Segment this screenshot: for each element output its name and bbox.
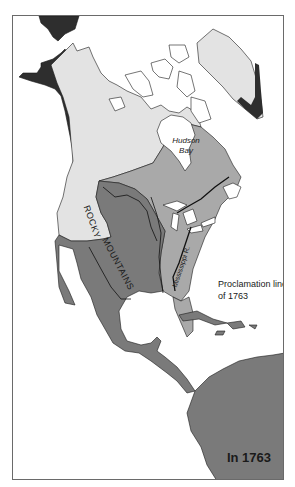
hudson-bay-label: Hudson Bay [166,136,206,156]
region-siberia [39,16,79,41]
map-frame: Hudson Bay ROCKY MOUNTAINS Mississippi R… [12,15,284,480]
map-title: In 1763 [227,450,271,465]
hudson-label-line1: Hudson [166,136,206,146]
north-america-map [13,16,284,480]
hudson-label-line2: Bay [166,146,206,156]
proclamation-label-line2: of 1763 [218,290,284,302]
proclamation-label-line1: Proclamation line [218,278,284,290]
proclamation-line-label: Proclamation line of 1763 [218,278,284,302]
